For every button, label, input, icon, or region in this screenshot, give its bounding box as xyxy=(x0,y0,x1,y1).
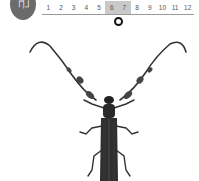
longhorn-beetle-icon xyxy=(0,0,199,181)
